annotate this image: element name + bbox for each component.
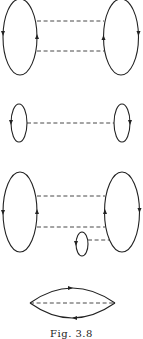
left-fermion-loop	[3, 172, 37, 252]
diagram-2	[9, 104, 132, 142]
right-small-loop	[114, 104, 130, 142]
arrow-up-icon	[35, 209, 39, 214]
diagram-3	[1, 172, 142, 256]
left-fermion-loop	[3, 0, 37, 75]
arrow-down-icon	[9, 120, 13, 125]
arrow-right-icon	[68, 286, 73, 290]
diagram-1	[1, 0, 141, 75]
diagram-4	[30, 286, 115, 320]
arrow-down-icon	[1, 31, 5, 36]
arrow-up-icon	[102, 35, 106, 40]
upper-fermion-arc	[30, 288, 115, 303]
right-fermion-loop	[104, 0, 139, 75]
tadpole-loop	[76, 232, 88, 256]
arrow-up-icon	[35, 34, 39, 39]
arrow-down-icon	[138, 208, 142, 213]
arrow-down-icon	[128, 120, 132, 125]
arrow-up-icon	[103, 209, 107, 214]
lower-fermion-arc	[30, 303, 115, 318]
arrow-down-icon	[74, 241, 78, 246]
arrow-left-icon	[72, 316, 77, 320]
figure-caption: Fig. 3.8	[0, 328, 143, 339]
arrow-down-icon	[1, 210, 5, 215]
left-small-loop	[11, 104, 27, 142]
arrow-down-icon	[137, 31, 141, 36]
